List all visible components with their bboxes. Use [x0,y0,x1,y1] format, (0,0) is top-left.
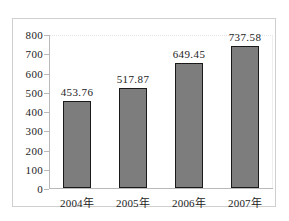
y-axis-line [49,35,50,189]
chart-screenshot: 8007006005004003002001000 453.76517.8764… [0,0,289,221]
x-axis-category-label: 2006年 [172,197,206,209]
y-axis-tick-label: 0 [37,184,43,195]
x-axis-category-label: 2004年 [60,197,94,209]
x-axis-line [49,188,273,189]
bar [63,101,91,188]
plot-area: 453.76517.87649.45737.58 [49,35,273,189]
plot-right-edge [272,35,273,189]
bar [119,88,147,188]
x-axis-labels: 2004年2005年2006年2007年 [49,197,273,213]
y-axis-tick-label: 100 [26,164,43,175]
x-axis-category-label: 2007年 [228,197,262,209]
y-axis-tick-mark [44,189,49,190]
y-axis-tick-mark [44,170,49,171]
y-axis-tick-mark [44,35,49,36]
y-axis-tick-label: 500 [26,87,43,98]
bar-value-label: 737.58 [229,32,262,43]
y-axis-tick-mark [44,131,49,132]
y-axis-tick-label: 600 [26,68,43,79]
x-axis-category-label: 2005年 [116,197,150,209]
y-axis-tick-mark [44,151,49,152]
y-axis-tick-label: 400 [26,107,43,118]
y-axis-tick-mark [44,112,49,113]
bar-value-label: 517.87 [117,74,150,85]
bar-value-label: 649.45 [173,49,206,60]
y-axis-tick-label: 700 [26,49,43,60]
y-axis-tick-label: 300 [26,126,43,137]
y-axis-labels: 8007006005004003002001000 [11,35,43,189]
y-axis-tick-mark [44,54,49,55]
y-axis-tick-mark [44,93,49,94]
y-axis-tick-label: 200 [26,145,43,156]
bar-value-label: 453.76 [61,87,94,98]
y-axis-tick-mark [44,74,49,75]
y-axis-tick-label: 800 [26,30,43,41]
bar [175,63,203,188]
bar [231,46,259,188]
chart-frame: 8007006005004003002001000 453.76517.8764… [12,18,276,207]
